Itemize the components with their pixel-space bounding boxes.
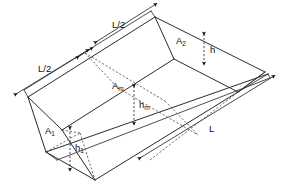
dim-line-full-length: [140, 76, 274, 158]
label-area-far-end: A2: [176, 35, 186, 47]
label-length-half-left: L/2: [38, 63, 51, 74]
outer-front-wall-bottom: [57, 78, 270, 160]
mid-section-right-rib: [165, 101, 198, 135]
dimension-length-half-left: L/2: [16, 50, 88, 94]
area-labels: A2 Am A1: [45, 35, 186, 137]
mid-section-floor-edge: [118, 88, 198, 135]
dim-line-top-half: [96, 4, 156, 42]
label-length-half-top: L/2: [112, 19, 125, 30]
floor-hidden-far-edge: [150, 92, 238, 160]
diagram-canvas: L/2 L/2 L h hm: [0, 0, 286, 188]
trough-diagram-svg: L/2 L/2 L h hm: [0, 0, 286, 188]
outer-back-wall-cap-right: [151, 11, 155, 17]
right-tip-line-a: [238, 72, 265, 92]
floor-front-left-edge: [62, 130, 95, 180]
label-depth-mid: hm: [139, 99, 150, 111]
label-depth-far: h: [210, 44, 215, 55]
dim-line-left-half: [16, 50, 88, 94]
far-end-panel-left-rib: [155, 17, 174, 59]
outer-front-wall-cap-left: [46, 152, 57, 160]
label-depth-near: h1: [75, 142, 84, 154]
outer-front-wall-cap-right: [268, 74, 270, 78]
label-area-near-end: A1: [45, 125, 55, 137]
hidden-section-lines: [46, 53, 238, 180]
outer-front-wall-top: [46, 74, 268, 152]
dimension-depth-far: h: [204, 34, 215, 64]
label-length-full: L: [209, 123, 214, 134]
label-area-mid: Am: [112, 80, 124, 92]
floor-front-right-edge: [95, 92, 238, 180]
floor-back-right-edge: [174, 59, 238, 92]
near-section-hidden-rib-b: [62, 130, 80, 133]
dimension-depth-near: h1: [70, 128, 84, 170]
outer-back-wall-cap-left: [24, 90, 28, 97]
dimension-length-half-top: L/2: [96, 4, 156, 42]
mid-section-rim-edge: [85, 53, 165, 101]
rim-back-left-edge: [28, 17, 155, 97]
floor-back-left-edge: [62, 59, 174, 130]
dimension-length-full: L: [140, 76, 274, 158]
